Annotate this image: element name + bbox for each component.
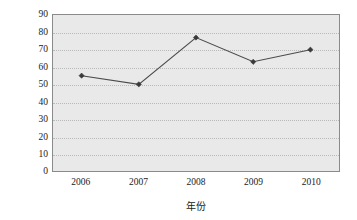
- y-tick-label: 10: [24, 149, 48, 159]
- x-tick-label: 2007: [108, 176, 168, 188]
- x-axis-title: 年份: [52, 198, 340, 213]
- data-series-line: [53, 15, 339, 171]
- y-tick-label: 20: [24, 132, 48, 142]
- y-tick-label: 70: [24, 44, 48, 54]
- y-tick-label: 80: [24, 27, 48, 37]
- line-chart: 平均支助资金(万元) 90 80 70 60 50 40 30 20 10 0 …: [0, 0, 357, 220]
- x-tick-label: 2009: [224, 176, 284, 188]
- y-tick-label: 40: [24, 97, 48, 107]
- y-tick-label: 50: [24, 79, 48, 89]
- y-tick-label: 90: [24, 9, 48, 19]
- x-tick-label: 2008: [166, 176, 226, 188]
- x-tick-label: 2006: [51, 176, 111, 188]
- y-tick-label: 60: [24, 62, 48, 72]
- plot-area: [52, 14, 340, 172]
- y-tick-label: 0: [24, 166, 48, 176]
- x-axis-tick-labels: 2006 2007 2008 2009 2010: [52, 176, 340, 190]
- y-axis-tick-labels: 90 80 70 60 50 40 30 20 10 0: [24, 14, 48, 172]
- y-tick-label: 30: [24, 114, 48, 124]
- x-tick-label: 2010: [281, 176, 341, 188]
